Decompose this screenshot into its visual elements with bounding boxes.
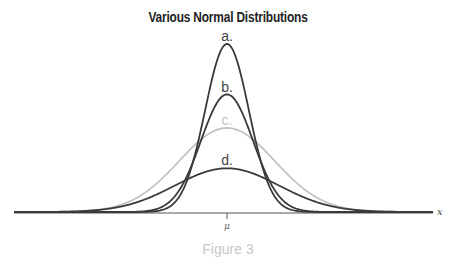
mean-tick-label: μ	[224, 221, 230, 231]
x-axis-label: x	[437, 206, 443, 217]
series-label-c: c.	[222, 112, 233, 128]
curve-d	[14, 168, 433, 212]
figure-caption: Figure 3	[0, 241, 456, 257]
chart-plot: μ x a. b. c. d.	[0, 0, 456, 264]
series-label-d: d.	[221, 152, 233, 168]
series-label-b: b.	[221, 79, 233, 95]
series-label-a: a.	[221, 28, 233, 44]
curve-c	[14, 128, 433, 212]
